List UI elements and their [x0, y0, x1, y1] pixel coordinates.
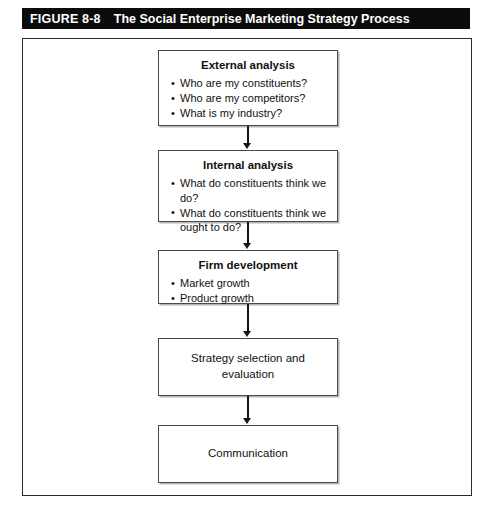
- arrow-down-icon: [243, 143, 251, 149]
- node-content: Strategy selection and evaluation: [159, 339, 337, 395]
- connector-line-3: [247, 304, 249, 332]
- arrow-down-icon: [243, 331, 251, 337]
- list-item: What do constituents think we ought to d…: [171, 206, 331, 235]
- node-heading: Internal analysis: [159, 151, 337, 176]
- list-item: What is my industry?: [171, 106, 331, 121]
- node-heading: Firm development: [159, 251, 337, 276]
- list-item: Who are my competitors?: [171, 91, 331, 106]
- figure-title-bar: FIGURE 8-8 The Social Enterprise Marketi…: [22, 8, 470, 29]
- arrow-down-icon: [243, 418, 251, 424]
- connector-line-4: [247, 396, 249, 419]
- figure-number-label: FIGURE 8-8: [30, 12, 101, 26]
- node-heading: Strategy selection and evaluation: [169, 351, 327, 382]
- list-item: Product growth: [171, 291, 331, 306]
- flow-node-internal-analysis[interactable]: Internal analysis What do constituents t…: [158, 150, 338, 222]
- node-heading: Communication: [208, 446, 288, 462]
- node-heading: External analysis: [159, 51, 337, 76]
- connector-line-1: [247, 126, 249, 144]
- node-content: Communication: [159, 426, 337, 482]
- list-item: What do constituents think we do?: [171, 176, 331, 205]
- flow-node-strategy-selection-and-evaluation[interactable]: Strategy selection and evaluation: [158, 338, 338, 396]
- node-bullet-list: Who are my constituents? Who are my comp…: [159, 76, 337, 128]
- connector-line-2: [247, 222, 249, 244]
- list-item: Market growth: [171, 276, 331, 291]
- flow-node-external-analysis[interactable]: External analysis Who are my constituent…: [158, 50, 338, 126]
- flow-node-communication[interactable]: Communication: [158, 425, 338, 483]
- list-item: Who are my constituents?: [171, 76, 331, 91]
- flow-node-firm-development[interactable]: Firm development Market growth Product g…: [158, 250, 338, 304]
- arrow-down-icon: [243, 243, 251, 249]
- figure-title-text: The Social Enterprise Marketing Strategy…: [114, 12, 410, 26]
